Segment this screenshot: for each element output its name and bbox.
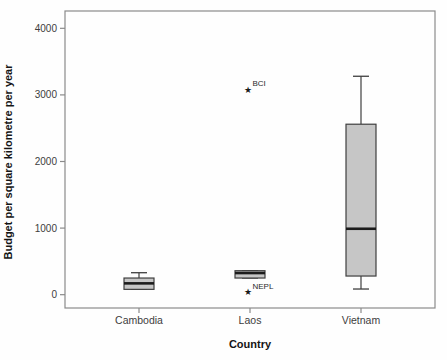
y-tick-label-0: 0 bbox=[51, 289, 57, 300]
x-tick-label-vietnam: Vietnam bbox=[342, 314, 381, 326]
x-axis-title: Country bbox=[229, 338, 272, 350]
x-tick-label-cambodia: Cambodia bbox=[115, 314, 163, 326]
plot-frame bbox=[65, 11, 435, 308]
y-tick-label-1000: 1000 bbox=[35, 223, 58, 234]
y-axis-title: Budget per square kilometre per year bbox=[2, 64, 14, 260]
outlier-label-nepl: NEPL bbox=[253, 282, 274, 291]
y-tick-label-3000: 3000 bbox=[35, 89, 58, 100]
boxplot-canvas: 01000200030004000CambodiaLaosVietnamCoun… bbox=[0, 0, 447, 360]
y-tick-label-4000: 4000 bbox=[35, 23, 58, 34]
x-tick-label-laos: Laos bbox=[239, 314, 262, 326]
box-vietnam bbox=[346, 124, 376, 276]
y-tick-label-2000: 2000 bbox=[35, 156, 58, 167]
outlier-label-bci: BCI bbox=[253, 79, 266, 88]
outlier-star-nepl: ★ bbox=[244, 287, 252, 297]
boxplot-figure: 01000200030004000CambodiaLaosVietnamCoun… bbox=[0, 0, 447, 360]
outlier-star-bci: ★ bbox=[244, 85, 252, 95]
